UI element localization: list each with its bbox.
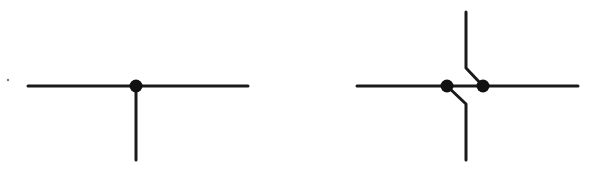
diagram-canvas: [0, 0, 591, 172]
t-junction-symbol: [28, 80, 248, 161]
junction-dot-icon: [130, 80, 143, 93]
staggered-double-junction-symbol: [357, 12, 578, 160]
speck-mark: [7, 79, 9, 81]
junction-diagram: [0, 0, 591, 172]
wire-bent-line: [466, 12, 483, 86]
junction-dot-icon: [477, 80, 490, 93]
wire-bent-line: [447, 86, 466, 160]
junction-dot-icon: [441, 80, 454, 93]
